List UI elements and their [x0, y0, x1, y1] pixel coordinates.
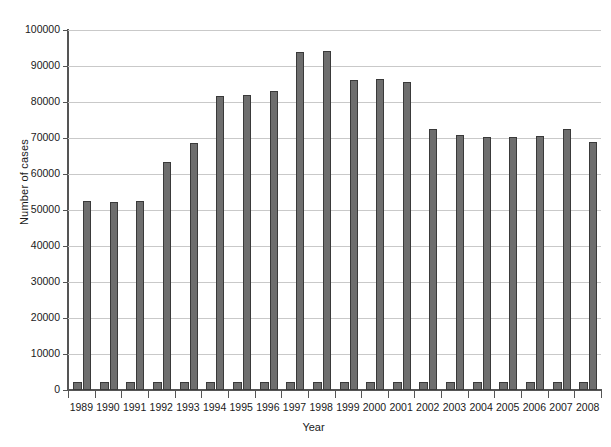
bar-small — [100, 382, 109, 390]
bar-small — [419, 382, 428, 390]
bar-tall — [190, 143, 198, 390]
bar-small — [499, 382, 508, 390]
bar-tall — [216, 96, 224, 390]
bar-small — [286, 382, 295, 390]
x-tick-mark — [201, 391, 202, 398]
x-tick-label: 2002 — [413, 401, 443, 413]
y-tick-mark — [63, 354, 68, 355]
y-tick-label: 90000 — [4, 59, 60, 71]
y-tick-mark — [63, 210, 68, 211]
x-tick-label: 1997 — [280, 401, 310, 413]
bar-small — [340, 382, 349, 390]
bar-tall — [270, 91, 278, 390]
x-tick-mark — [521, 391, 522, 398]
x-tick-mark — [574, 391, 575, 398]
gridline — [68, 354, 601, 355]
x-tick-label: 1994 — [200, 401, 230, 413]
bar-tall — [563, 129, 571, 390]
x-tick-mark — [441, 391, 442, 398]
y-tick-label: 30000 — [4, 275, 60, 287]
bar-tall — [376, 79, 384, 390]
y-tick-mark — [63, 246, 68, 247]
y-tick-label: 100000 — [4, 23, 60, 35]
x-tick-mark — [468, 391, 469, 398]
x-tick-mark — [175, 391, 176, 398]
bar-tall — [509, 137, 517, 390]
bar-small — [446, 382, 455, 390]
bar-tall — [536, 136, 544, 390]
bar-small — [553, 382, 562, 390]
bar-tall — [323, 51, 331, 390]
bar-tall — [429, 129, 437, 390]
bar-tall — [483, 137, 491, 390]
y-tick-label: 10000 — [4, 347, 60, 359]
bar-small — [206, 382, 215, 390]
bar-tall — [403, 82, 411, 390]
x-tick-label: 2000 — [359, 401, 389, 413]
x-tick-label: 1992 — [146, 401, 176, 413]
bar-small — [579, 382, 588, 390]
x-tick-mark — [228, 391, 229, 398]
y-tick-mark — [63, 66, 68, 67]
x-tick-label: 2008 — [573, 401, 603, 413]
bar-tall — [350, 80, 358, 390]
y-tick-label: 80000 — [4, 95, 60, 107]
y-tick-mark — [63, 102, 68, 103]
x-tick-mark — [601, 391, 602, 398]
bar-small — [366, 382, 375, 390]
x-tick-mark — [414, 391, 415, 398]
bar-tall — [296, 52, 304, 390]
y-tick-label: 70000 — [4, 131, 60, 143]
y-tick-label: 40000 — [4, 239, 60, 251]
x-tick-mark — [494, 391, 495, 398]
x-tick-label: 1989 — [66, 401, 96, 413]
y-tick-label: 60000 — [4, 167, 60, 179]
y-tick-mark — [63, 30, 68, 31]
gridline — [68, 318, 601, 319]
bar-chart-figure: Number of cases Year 0100002000030000400… — [0, 0, 611, 447]
x-tick-mark — [255, 391, 256, 398]
bar-small — [126, 382, 135, 390]
x-tick-label: 2007 — [546, 401, 576, 413]
x-tick-label: 1993 — [173, 401, 203, 413]
x-axis-title: Year — [0, 421, 611, 433]
bar-small — [153, 382, 162, 390]
bar-tall — [243, 95, 251, 390]
bar-small — [313, 382, 322, 390]
gridline — [68, 102, 601, 103]
x-tick-mark — [335, 391, 336, 398]
x-tick-mark — [121, 391, 122, 398]
y-tick-label: 20000 — [4, 311, 60, 323]
bar-tall — [136, 201, 144, 390]
x-tick-label: 1999 — [333, 401, 363, 413]
x-tick-mark — [388, 391, 389, 398]
y-tick-label: 0 — [4, 383, 60, 395]
gridline — [68, 138, 601, 139]
x-tick-label: 2001 — [386, 401, 416, 413]
gridline — [68, 174, 601, 175]
x-tick-mark — [281, 391, 282, 398]
bar-small — [526, 382, 535, 390]
y-tick-mark — [63, 138, 68, 139]
y-tick-mark — [63, 174, 68, 175]
x-tick-label: 2004 — [466, 401, 496, 413]
x-tick-mark — [148, 391, 149, 398]
x-tick-label: 1995 — [226, 401, 256, 413]
bar-small — [233, 382, 242, 390]
gridline — [68, 30, 601, 31]
y-tick-label: 50000 — [4, 203, 60, 215]
y-tick-mark — [63, 318, 68, 319]
gridline — [68, 246, 601, 247]
x-tick-label: 1996 — [253, 401, 283, 413]
x-tick-label: 2003 — [439, 401, 469, 413]
x-tick-label: 2005 — [493, 401, 523, 413]
x-tick-label: 1990 — [93, 401, 123, 413]
bar-tall — [456, 135, 464, 390]
bar-small — [393, 382, 402, 390]
bar-small — [260, 382, 269, 390]
gridline — [68, 66, 601, 67]
bar-small — [473, 382, 482, 390]
gridline — [68, 210, 601, 211]
x-tick-mark — [308, 391, 309, 398]
y-tick-mark — [63, 282, 68, 283]
